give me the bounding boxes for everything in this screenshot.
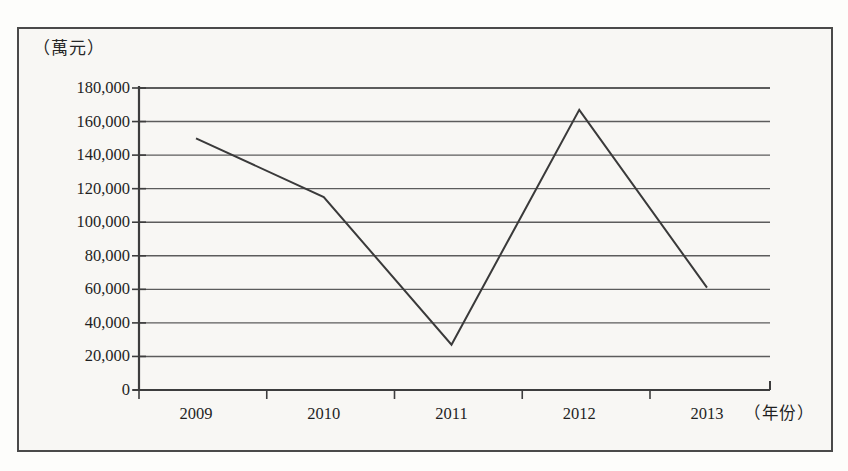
y-axis-tick-label: 20,000 [22,348,130,365]
y-axis-tick-label: 160,000 [22,113,130,130]
x-axis-tick-label: 2012 [563,406,596,423]
y-axis-tick-label-group: 020,00040,00060,00080,000100,000120,0001… [22,78,130,402]
x-axis-tick-label: 2010 [307,406,340,423]
y-axis-tick-label: 60,000 [22,281,130,298]
y-axis-tick-label: 40,000 [22,315,130,332]
y-axis-tick-label: 120,000 [22,180,130,197]
chart-outer-frame [17,27,833,452]
x-axis-tick-label: 2013 [691,406,724,423]
x-axis-tick-label-group: 20092010201120122013 [0,406,848,438]
x-axis-tick-label: 2009 [180,406,213,423]
y-axis-tick-label: 100,000 [22,214,130,231]
y-axis-tick-label: 180,000 [22,80,130,97]
x-axis-caption-label: （年份） [744,406,814,423]
y-axis-tick-label: 0 [22,382,130,399]
y-axis-unit-label: （萬元） [33,34,105,59]
y-axis-tick-label: 140,000 [22,147,130,164]
x-axis-tick-label: 2011 [435,406,467,423]
line-chart-figure: （萬元） 020,00040,00060,00080,000100,000120… [0,0,848,471]
y-axis-tick-label: 80,000 [22,248,130,265]
